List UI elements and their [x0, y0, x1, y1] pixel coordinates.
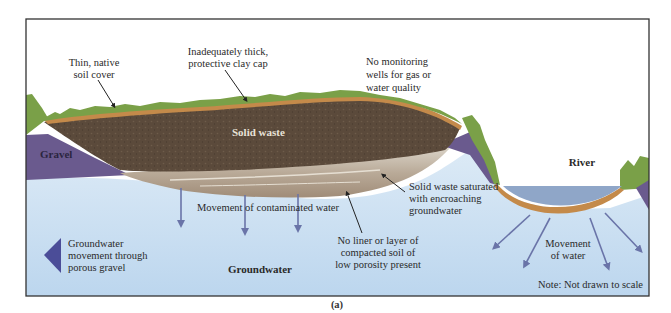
label-no-monitoring-1: No monitoring: [366, 56, 429, 67]
label-gravel: Gravel: [40, 148, 72, 160]
label-groundwater: Groundwater: [228, 263, 292, 275]
label-groundwater-movement-2: movement through: [68, 250, 148, 261]
label-movement-of-water-2: of water: [551, 250, 586, 261]
label-groundwater-movement-3: porous gravel: [68, 262, 126, 273]
label-movement-of-water-1: Movement: [545, 238, 591, 249]
label-saturated-2: with encroaching: [409, 193, 482, 204]
label-contaminated-water: Movement of contaminated water: [197, 202, 339, 213]
label-no-liner-3: low porosity present: [335, 259, 421, 270]
label-no-monitoring-2: wells for gas or: [366, 69, 432, 80]
note-not-to-scale: Note: Not drawn to scale: [538, 279, 643, 290]
label-no-monitoring-3: water quality: [366, 82, 422, 93]
label-thin-soil-2: soil cover: [73, 69, 115, 80]
label-no-liner-2: compacted soil of: [341, 247, 416, 258]
label-saturated-3: groundwater: [409, 205, 463, 216]
label-solid-waste: Solid waste: [232, 126, 285, 138]
label-thin-soil-1: Thin, native: [69, 57, 120, 68]
figure-caption: (a): [331, 299, 344, 311]
label-river: River: [569, 156, 595, 168]
label-clay-cap-1: Inadequately thick,: [188, 46, 268, 57]
landfill-diagram: Thin, native soil cover Inadequately thi…: [0, 0, 671, 313]
label-groundwater-movement-1: Groundwater: [68, 238, 124, 249]
label-no-liner-1: No liner or layer of: [337, 235, 419, 246]
label-saturated-1: Solid waste saturated: [409, 181, 499, 192]
label-clay-cap-2: protective clay cap: [188, 58, 267, 69]
